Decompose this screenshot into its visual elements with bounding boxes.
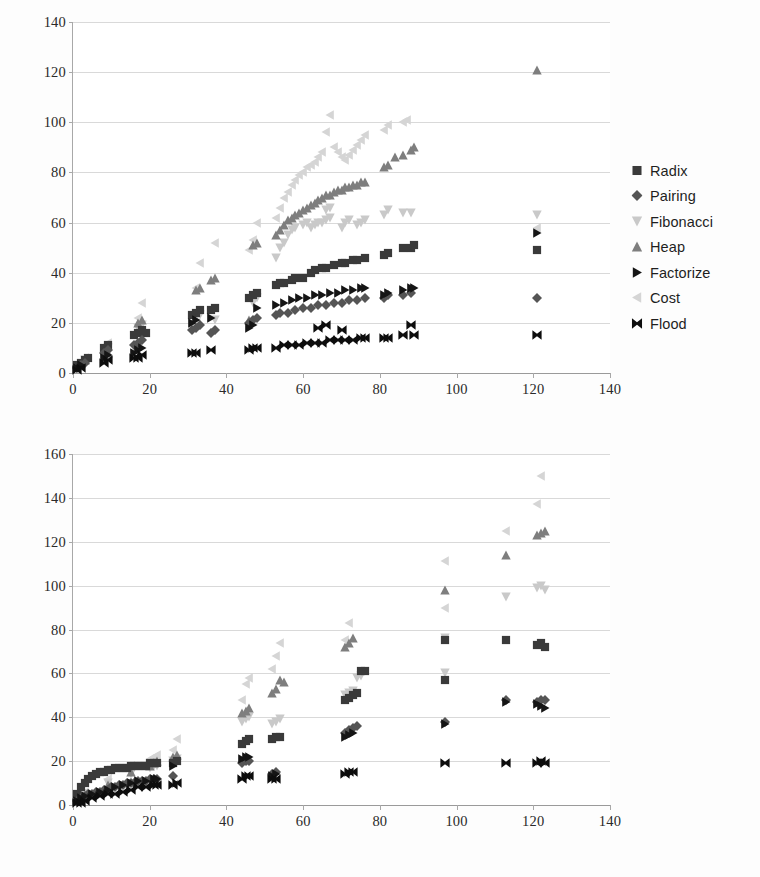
data-point-cost xyxy=(244,669,254,687)
x-axis-tick-label: 60 xyxy=(296,813,311,830)
y-axis-tick-label: 160 xyxy=(44,446,73,463)
data-point-radix xyxy=(360,662,370,680)
legend-item-radix[interactable]: Radix xyxy=(630,158,758,184)
gridline-horizontal xyxy=(73,172,610,173)
data-point-factorize xyxy=(409,279,419,297)
gridline-horizontal xyxy=(73,542,610,543)
x-axis-tick xyxy=(457,373,458,378)
x-axis-tick-label: 0 xyxy=(69,813,76,830)
data-point-flood xyxy=(137,346,147,364)
flood-marker-icon xyxy=(630,317,644,331)
x-axis-tick xyxy=(380,373,381,378)
data-point-cost xyxy=(440,599,450,617)
data-point-fibonacci xyxy=(383,201,393,219)
data-point-flood xyxy=(103,351,113,369)
y-axis-tick-label: 100 xyxy=(44,114,73,131)
data-point-cost xyxy=(275,634,285,652)
data-point-heap xyxy=(409,138,419,156)
data-point-radix xyxy=(501,631,511,649)
data-point-cost xyxy=(317,143,327,161)
x-axis-tick-label: 0 xyxy=(69,381,76,398)
legend-item-flood[interactable]: Flood xyxy=(630,311,758,337)
data-point-factorize xyxy=(248,316,258,334)
x-axis-tick-label: 20 xyxy=(142,381,157,398)
x-axis-tick xyxy=(150,805,151,810)
y-axis-tick-label: 0 xyxy=(59,797,73,814)
data-point-flood xyxy=(191,344,201,362)
data-point-cost xyxy=(360,126,370,144)
data-point-factorize xyxy=(532,224,542,242)
legend-item-heap[interactable]: Heap xyxy=(630,235,758,261)
data-point-flood xyxy=(383,329,393,347)
data-point-factorize xyxy=(252,299,262,317)
data-point-fibonacci xyxy=(532,206,542,224)
gridline-horizontal xyxy=(73,673,610,674)
x-axis-tick-label: 80 xyxy=(372,813,387,830)
chart-page: 020406080100120140020406080100120140 Rad… xyxy=(0,0,760,877)
data-point-cost xyxy=(440,552,450,570)
x-axis-tick-label: 120 xyxy=(522,381,544,398)
x-axis-tick xyxy=(610,373,611,378)
x-axis-tick-label: 140 xyxy=(599,381,621,398)
data-point-radix xyxy=(352,684,362,702)
legend-label: Cost xyxy=(650,290,680,306)
data-point-factorize xyxy=(244,748,254,766)
data-point-heap xyxy=(440,581,450,599)
data-point-cost xyxy=(252,214,262,232)
legend-label: Factorize xyxy=(650,265,711,281)
data-point-heap xyxy=(244,699,254,717)
legend-item-pairing[interactable]: Pairing xyxy=(630,184,758,210)
gridline-horizontal xyxy=(73,122,610,123)
x-axis-tick xyxy=(380,805,381,810)
data-point-radix xyxy=(409,236,419,254)
data-point-cost xyxy=(383,116,393,134)
x-axis-tick xyxy=(226,805,227,810)
data-point-factorize xyxy=(348,724,358,742)
x-axis-tick xyxy=(457,805,458,810)
data-point-flood xyxy=(244,767,254,785)
data-point-cost xyxy=(325,106,335,124)
data-point-flood xyxy=(360,329,370,347)
y-axis-tick-label: 20 xyxy=(51,314,73,331)
data-point-heap xyxy=(279,673,289,691)
x-axis-tick xyxy=(533,805,534,810)
data-point-flood xyxy=(321,316,331,334)
legend-label: Pairing xyxy=(650,188,696,204)
data-point-factorize xyxy=(360,279,370,297)
fibonacci-marker-icon xyxy=(630,215,644,229)
factorize-marker-icon xyxy=(630,266,644,280)
data-point-radix xyxy=(360,249,370,267)
legend-label: Flood xyxy=(650,316,687,332)
y-axis-tick-label: 120 xyxy=(44,64,73,81)
legend-item-factorize[interactable]: Factorize xyxy=(630,260,758,286)
y-axis-tick-label: 40 xyxy=(51,264,73,281)
legend-item-fibonacci[interactable]: Fibonacci xyxy=(630,209,758,235)
data-point-heap xyxy=(540,522,550,540)
y-axis-tick-label: 100 xyxy=(44,577,73,594)
legend-item-cost[interactable]: Cost xyxy=(630,286,758,312)
x-axis-tick xyxy=(226,373,227,378)
gridline-horizontal xyxy=(73,22,610,23)
data-point-radix xyxy=(440,671,450,689)
legend-label: Heap xyxy=(650,239,685,255)
data-point-radix xyxy=(244,730,254,748)
data-point-heap xyxy=(348,629,358,647)
scatter-chart-bottom: 020406080100120140160020406080100120140 … xyxy=(0,440,760,870)
gridline-horizontal xyxy=(73,717,610,718)
data-point-fibonacci xyxy=(360,211,370,229)
gridline-horizontal xyxy=(73,630,610,631)
y-axis-tick-label: 60 xyxy=(51,214,73,231)
data-point-fibonacci xyxy=(275,710,285,728)
y-axis-tick-label: 80 xyxy=(51,621,73,638)
heap-marker-icon xyxy=(630,240,644,254)
legend-label: Fibonacci xyxy=(650,214,713,230)
data-point-factorize xyxy=(206,309,216,327)
data-point-flood xyxy=(271,770,281,788)
data-point-factorize xyxy=(383,284,393,302)
x-axis-tick-label: 140 xyxy=(599,813,621,830)
data-point-flood xyxy=(206,341,216,359)
gridline-horizontal xyxy=(73,454,610,455)
data-point-factorize xyxy=(540,699,550,717)
data-point-radix xyxy=(275,728,285,746)
data-point-cost xyxy=(402,111,412,129)
